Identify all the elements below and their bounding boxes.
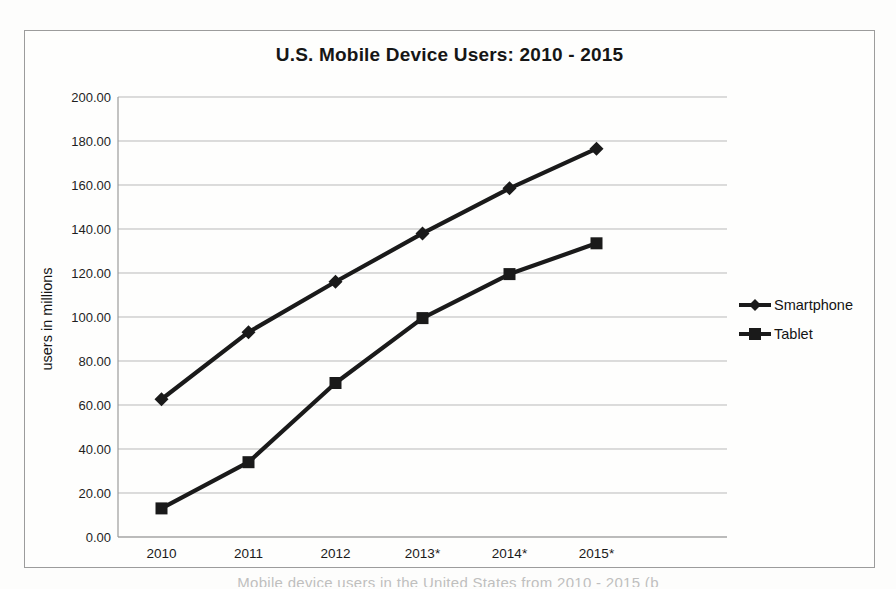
caption-clipped: Mobile device users in the United States… xyxy=(0,574,896,587)
y-tick-label: 180.00 xyxy=(71,134,111,149)
legend-label: Smartphone xyxy=(774,297,853,313)
caption-text: Mobile device users in the United States… xyxy=(237,574,659,587)
square-marker-icon xyxy=(737,326,773,342)
x-tick-label: 2014* xyxy=(492,546,528,561)
data-point-tablet xyxy=(504,268,516,280)
data-point-tablet xyxy=(417,312,429,324)
x-tick-label: 2013* xyxy=(405,546,441,561)
chart-legend: SmartphoneTablet xyxy=(737,297,853,355)
data-point-tablet xyxy=(243,456,255,468)
data-point-smartphone xyxy=(590,142,604,156)
series-line-tablet xyxy=(162,243,597,508)
series-line-smartphone xyxy=(162,149,597,400)
legend-item-tablet: Tablet xyxy=(737,326,853,342)
y-tick-label: 60.00 xyxy=(78,398,111,413)
y-tick-label: 0.00 xyxy=(86,530,111,545)
chart-container: U.S. Mobile Device Users: 2010 - 2015 us… xyxy=(24,30,875,568)
data-point-tablet xyxy=(156,502,168,514)
data-point-tablet xyxy=(330,377,342,389)
legend-label: Tablet xyxy=(774,326,813,342)
y-tick-label: 80.00 xyxy=(78,354,111,369)
y-tick-label: 20.00 xyxy=(78,486,111,501)
x-tick-label: 2012 xyxy=(320,546,350,561)
y-tick-label: 40.00 xyxy=(78,442,111,457)
page: { "chart_data": { "type": "line", "title… xyxy=(0,0,896,589)
legend-item-smartphone: Smartphone xyxy=(737,297,853,313)
y-tick-label: 200.00 xyxy=(71,90,111,105)
y-tick-label: 140.00 xyxy=(71,222,111,237)
x-tick-label: 2011 xyxy=(234,546,263,561)
x-tick-label: 2015* xyxy=(579,546,615,561)
y-tick-label: 120.00 xyxy=(71,266,111,281)
y-tick-label: 160.00 xyxy=(71,178,111,193)
x-tick-label: 2010 xyxy=(146,546,176,561)
data-point-tablet xyxy=(591,237,603,249)
y-tick-label: 100.00 xyxy=(71,310,111,325)
diamond-marker-icon xyxy=(737,297,773,313)
